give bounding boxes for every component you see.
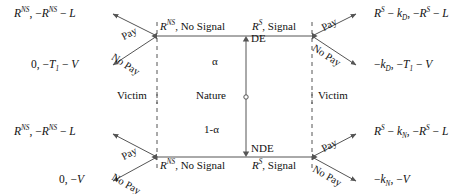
nature-prob-up: α — [212, 56, 218, 67]
tree-edges — [0, 0, 474, 194]
nature-prob-down: 1-α — [204, 124, 219, 135]
game-tree-diagram: RNS, −RNS − L 0, −T1 − V RS − kD, −RS − … — [0, 0, 474, 194]
signal-label-top-right: RS, Signal — [252, 21, 296, 32]
payoff-top-left-pay: RNS, −RNS − L — [14, 8, 76, 20]
payoff-bottom-left-nopay: 0, −V — [59, 174, 84, 186]
payoff-top-right-nopay: −kD, −T1 − V — [374, 59, 432, 71]
nature-node-label: Nature — [196, 90, 226, 101]
payoff-bottom-left-pay: RNS, −RNS − L — [14, 126, 76, 138]
payoff-bottom-right-nopay: −kN, −V — [374, 174, 410, 186]
player-label-victim-top-left: Victim — [117, 90, 147, 101]
nature-branch-de-label: DE — [251, 33, 266, 44]
signal-label-bottom-left: RNS, No Signal — [160, 160, 225, 171]
player-label-victim-top-right: Victim — [318, 90, 348, 101]
signal-label-bottom-right: RS, Signal — [252, 160, 296, 171]
payoff-bottom-right-pay: RS − kN, −RS − L — [374, 126, 448, 138]
nature-branch-nde-label: NDE — [251, 143, 274, 154]
payoff-top-right-pay: RS − kD, −RS − L — [374, 8, 449, 20]
payoff-top-left-nopay: 0, −T1 − V — [31, 59, 78, 71]
signal-label-top-left: RNS, No Signal — [160, 21, 225, 32]
